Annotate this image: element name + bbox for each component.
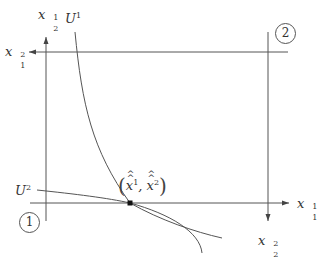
edgeworth-box-diagram xyxy=(0,0,317,259)
label-sup: 1 xyxy=(53,14,58,22)
x-hat-hat-1: x^^ xyxy=(126,179,133,192)
label-base: x xyxy=(258,233,265,248)
label-sub: 1 xyxy=(312,214,317,222)
label-u2: U2 xyxy=(15,184,31,197)
origin-agent1-marker: 1 xyxy=(19,212,40,233)
label-x1-agent1: x11 xyxy=(297,197,304,210)
indifference-curve-u2 xyxy=(37,190,202,253)
equilibrium-point xyxy=(128,201,133,206)
label-sup: 2 xyxy=(26,183,31,192)
label-u1: U1 xyxy=(65,12,81,25)
paren-open: ( xyxy=(118,174,126,198)
equilibrium-label: (x^^1, x^^2) xyxy=(118,176,167,196)
label-base: U xyxy=(15,183,26,198)
indifference-curve-u1 xyxy=(75,32,222,238)
origin-agent2-marker: 2 xyxy=(275,23,296,44)
label-base: U xyxy=(65,11,76,26)
separator: , xyxy=(138,178,142,193)
label-base: x xyxy=(297,196,304,211)
hat-accent-icon: ^ xyxy=(148,174,156,183)
x-hat-hat-2: x^^ xyxy=(147,179,154,192)
label-sub: 2 xyxy=(273,251,278,259)
label-sup: 2 xyxy=(20,51,25,59)
label-base: x xyxy=(38,7,45,22)
label-sup: 2 xyxy=(273,240,278,248)
label-x1-agent2: x21 xyxy=(5,45,12,58)
label-sub: 1 xyxy=(20,62,25,70)
label-x2-agent1: x12 xyxy=(38,8,45,21)
hat-accent-icon: ^ xyxy=(127,174,135,183)
label-base: x xyxy=(5,44,12,59)
label-sub: 2 xyxy=(53,25,58,33)
paren-close: ) xyxy=(159,174,167,198)
label-sup: 1 xyxy=(312,203,317,211)
label-sup: 1 xyxy=(76,11,81,20)
label-x2-agent2: x22 xyxy=(258,234,265,247)
